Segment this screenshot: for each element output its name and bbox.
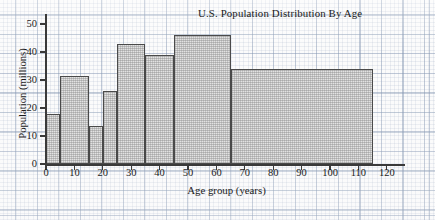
x-tick-label: 0 (43, 168, 48, 179)
x-tick-label: 100 (322, 168, 338, 179)
x-tick-label: 50 (183, 168, 194, 179)
x-tick-label: 110 (351, 168, 366, 179)
x-tick-label: 60 (211, 168, 222, 179)
x-tick-label: 90 (296, 168, 307, 179)
x-tick-label: 70 (240, 168, 251, 179)
x-axis-title: Age group (years) (0, 184, 435, 196)
x-tick-label: 30 (126, 168, 137, 179)
x-tick-label: 40 (154, 168, 165, 179)
x-tick-label: 120 (379, 168, 395, 179)
x-tick-label: 80 (268, 168, 279, 179)
x-tick-label: 20 (98, 168, 109, 179)
y-axis-title: Population (millions) (17, 24, 28, 164)
histogram-chart: U.S. Population Distribution By Age 0102… (0, 0, 435, 220)
x-tick-label: 10 (69, 168, 80, 179)
